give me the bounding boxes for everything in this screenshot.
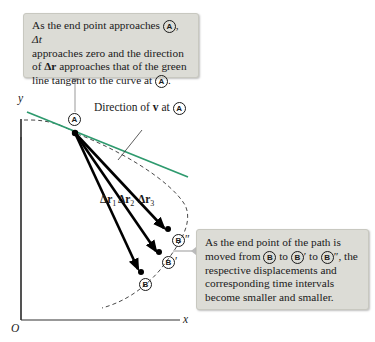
point-b1-label: B′ [162, 255, 178, 269]
x-axis-label: x [183, 313, 188, 325]
dr3-label: Δr3 [138, 193, 154, 208]
callout-tangent-note: As the end point approaches A, Δt approa… [23, 13, 199, 78]
dr2-label: Δr2 [118, 193, 134, 208]
point-b-label: B [139, 277, 152, 291]
direction-label: Direction of v at A [94, 101, 186, 115]
point-b2-dot [165, 226, 171, 232]
point-a-dot [72, 130, 78, 136]
vector-dr3 [75, 133, 164, 228]
point-b2-label: B″ [172, 233, 190, 247]
vector-dr2 [75, 133, 156, 251]
origin-label: O [11, 322, 19, 334]
path-curve [24, 120, 188, 308]
point-b-dot [138, 269, 144, 275]
y-axis-label: y [18, 92, 23, 104]
dr1-label: Δr1 [100, 193, 116, 208]
callout-endpoint-note: As the end point of the path is moved fr… [196, 229, 369, 310]
point-a-label: A [68, 112, 81, 126]
